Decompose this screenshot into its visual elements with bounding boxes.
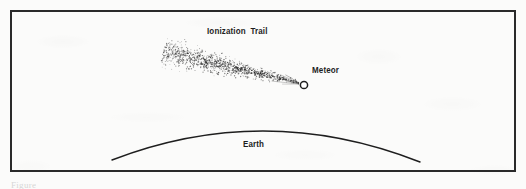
earth-horizon-arc bbox=[112, 131, 420, 162]
meteor-label: Meteor bbox=[312, 66, 339, 75]
meteor-head-circle bbox=[300, 81, 307, 88]
figure-caption-fragment: Figure bbox=[11, 180, 36, 189]
earth-label: Earth bbox=[243, 140, 264, 149]
ionization-trail-stipple bbox=[161, 38, 299, 83]
ionization-trail-label: Ionization Trail bbox=[207, 27, 268, 36]
meteor-ionization-trail-figure: Ionization Trail Meteor Earth Figure bbox=[0, 0, 526, 189]
